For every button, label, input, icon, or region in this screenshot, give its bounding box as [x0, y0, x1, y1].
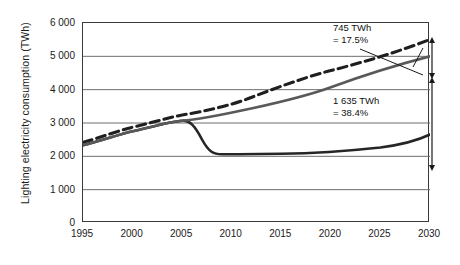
chart-figure: Lighting electricity consumption (TWh) 6… [0, 0, 460, 265]
measurement-arrows [425, 18, 460, 198]
annotation-lower-line2: = 38.4% [333, 107, 379, 119]
series-line-frozen-efficiency [83, 40, 430, 143]
x-tick-label: 2030 [399, 228, 459, 239]
plot-canvas [83, 23, 430, 223]
annotation-upper-line1: 745 TWh [333, 22, 371, 33]
gridlines [83, 56, 430, 189]
annotation-lower: 1 635 TWh = 38.4% [333, 95, 379, 118]
y-tick-label: 5 000 [12, 50, 82, 61]
plot-area [82, 22, 429, 222]
annotation-upper: 745 TWh = 17.5% [333, 22, 371, 45]
y-tick-label: 0 [12, 217, 82, 228]
annotation-upper-line2: = 17.5% [333, 34, 371, 46]
y-tick-label: 6 000 [12, 17, 82, 28]
y-tick-label: 4 000 [12, 83, 82, 94]
annotation-lower-line1: 1 635 TWh [333, 95, 379, 106]
y-tick-label: 1 000 [12, 183, 82, 194]
y-tick-label: 3 000 [12, 117, 82, 128]
y-tick-label: 2 000 [12, 150, 82, 161]
series-line-accelerated [83, 121, 430, 155]
